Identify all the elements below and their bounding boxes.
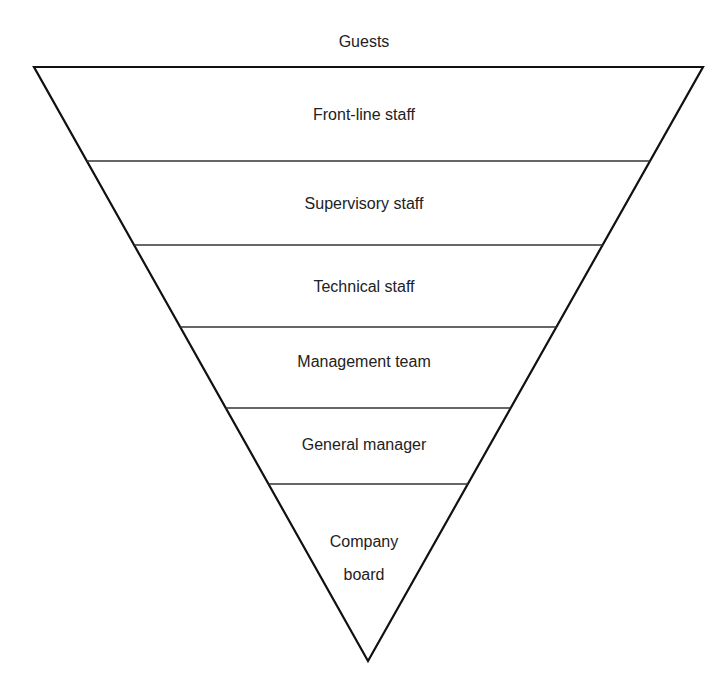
level-supervisory-staff: Supervisory staff xyxy=(0,194,728,214)
level-company-board-line2: board xyxy=(0,565,728,585)
level-management-team: Management team xyxy=(0,352,728,372)
level-front-line-staff: Front-line staff xyxy=(0,105,728,125)
guests-label: Guests xyxy=(0,32,728,52)
level-technical-staff: Technical staff xyxy=(0,277,728,297)
level-general-manager: General manager xyxy=(0,435,728,455)
level-company-board-line1: Company xyxy=(0,532,728,552)
